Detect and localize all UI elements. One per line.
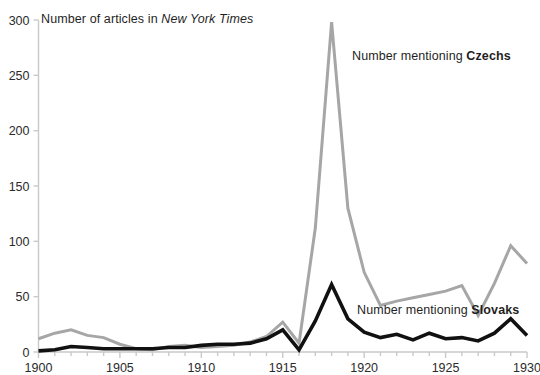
y-axis-tick-label: 0 bbox=[23, 346, 30, 360]
series-line-czechs bbox=[39, 22, 528, 350]
y-axis-tick-label: 250 bbox=[9, 69, 30, 83]
y-axis-tick-label: 50 bbox=[16, 290, 30, 304]
x-axis-tick-label: 1915 bbox=[269, 361, 297, 375]
x-axis-tick-label: 1900 bbox=[25, 361, 53, 375]
series-annotation-czechs-label: Czechs bbox=[466, 49, 510, 63]
series-annotation-slovaks-label: Slovaks bbox=[471, 303, 519, 317]
x-axis-tick-label: 1920 bbox=[350, 361, 378, 375]
series-annotation-slovaks-prefix: Number mentioning bbox=[357, 303, 471, 317]
y-axis-tick-label: 100 bbox=[9, 235, 30, 249]
series-annotation-slovaks: Number mentioning Slovaks bbox=[357, 303, 519, 317]
x-axis-tick-label: 1930 bbox=[513, 361, 540, 375]
y-axis-tick-label: 150 bbox=[9, 180, 30, 194]
y-axis-tick-label: 300 bbox=[9, 14, 30, 28]
series-annotation-czechs-prefix: Number mentioning bbox=[352, 49, 466, 63]
y-axis-tick-label: 200 bbox=[9, 124, 30, 138]
x-axis-tick-label: 1905 bbox=[106, 361, 134, 375]
series-annotation-czechs: Number mentioning Czechs bbox=[352, 49, 511, 63]
chart-container: Number of articles in New York Times 050… bbox=[0, 0, 540, 375]
x-axis-tick-label: 1910 bbox=[187, 361, 215, 375]
x-axis-tick-label: 1925 bbox=[432, 361, 460, 375]
